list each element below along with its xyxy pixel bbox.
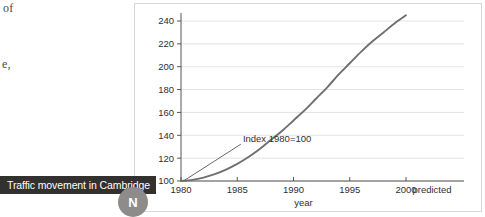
predicted-label: predicted bbox=[413, 184, 452, 195]
chart-gridlines bbox=[181, 21, 464, 181]
x-axis-title: year bbox=[294, 197, 312, 208]
y-tick-label: 160 bbox=[158, 107, 174, 118]
page-marker-letter: N bbox=[128, 195, 137, 210]
x-tick-label: 1980 bbox=[170, 184, 191, 195]
page-text-fragment-top: of bbox=[3, 1, 13, 16]
chart-y-axis: 100120140160180200220240 bbox=[158, 13, 181, 186]
x-tick-label: 1990 bbox=[283, 184, 304, 195]
x-tick-label: 1995 bbox=[339, 184, 360, 195]
y-tick-label: 120 bbox=[158, 153, 174, 164]
page-marker-badge: N bbox=[118, 187, 148, 217]
y-tick-label: 220 bbox=[158, 38, 174, 49]
annotation-index-label: Index 1980=100 bbox=[243, 133, 311, 144]
traffic-index-series-line bbox=[181, 15, 406, 181]
traffic-index-line-chart: 100120140160180200220240 198019851990199… bbox=[134, 0, 485, 215]
x-tick-label: 1985 bbox=[227, 184, 248, 195]
page-text-fragment-middle: e, bbox=[2, 57, 11, 72]
y-tick-label: 240 bbox=[158, 15, 174, 26]
y-tick-label: 180 bbox=[158, 84, 174, 95]
y-tick-label: 140 bbox=[158, 130, 174, 141]
y-tick-label: 200 bbox=[158, 61, 174, 72]
